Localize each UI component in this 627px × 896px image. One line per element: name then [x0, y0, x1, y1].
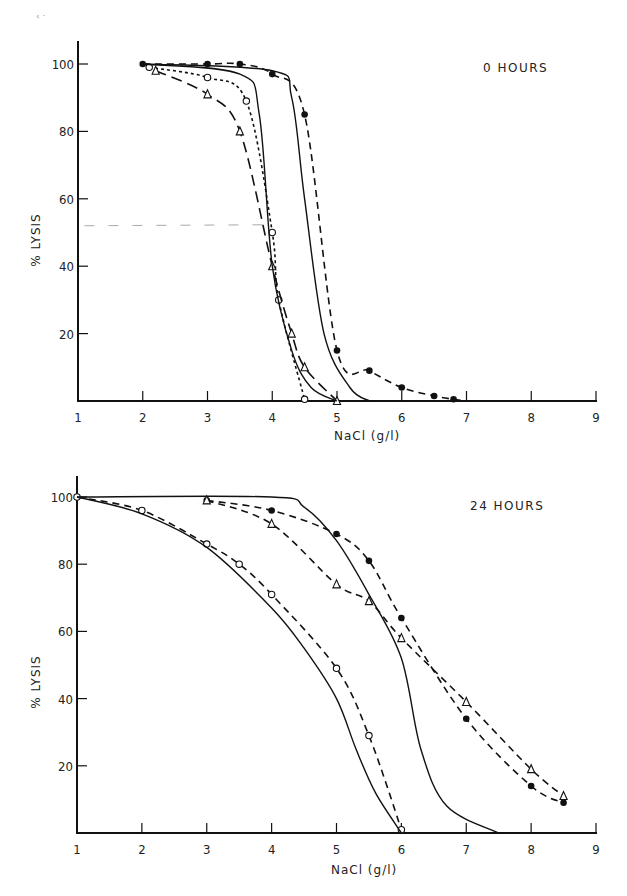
data-point-open-triangle	[236, 127, 243, 135]
x-tick-label: 4	[268, 842, 275, 857]
chart-title: 0 HOURS	[483, 61, 548, 75]
y-axis-label: % LYSIS	[29, 655, 43, 708]
x-tick-label: 1	[73, 842, 80, 857]
figure-canvas: ‹ · 123456789204060801000 HOURSNaCl (g/l…	[0, 0, 627, 896]
data-point-open-circle	[366, 732, 372, 738]
x-tick-label: 9	[592, 842, 599, 857]
data-point-filled-circle	[366, 367, 373, 374]
data-point-open-triangle	[288, 329, 295, 337]
x-axis-label: NaCl (g/l)	[331, 863, 397, 877]
x-axis-label: NaCl (g/l)	[334, 429, 400, 443]
x-tick-label: 6	[398, 410, 405, 425]
chart-24-hours: 1234567892040608010024 HOURSNaCl (g/l)% …	[29, 476, 600, 877]
data-point-open-circle	[333, 665, 339, 671]
series-line	[207, 500, 564, 802]
series-2	[152, 66, 341, 404]
x-tick-label: 2	[139, 410, 146, 425]
chart-0-hours: 123456789204060801000 HOURSNaCl (g/l)% L…	[29, 41, 600, 443]
y-tick-label: 80	[58, 557, 73, 572]
data-point-filled-circle	[463, 715, 470, 722]
data-point-open-triangle	[204, 90, 211, 98]
data-point-filled-circle	[398, 384, 405, 391]
x-tick-label: 5	[333, 842, 340, 857]
data-point-filled-circle	[560, 799, 567, 806]
x-tick-label: 3	[204, 410, 211, 425]
data-point-open-triangle	[268, 519, 275, 527]
series-4	[77, 496, 499, 833]
x-tick-label: 7	[463, 410, 470, 425]
x-tick-label: 6	[398, 842, 405, 857]
y-tick-label: 40	[58, 692, 73, 707]
series-line	[149, 67, 304, 399]
data-point-filled-circle	[301, 111, 308, 118]
x-tick-label: 8	[528, 410, 535, 425]
data-point-open-circle	[243, 98, 249, 104]
data-point-open-circle	[301, 396, 307, 402]
x-tick-label: 2	[138, 842, 145, 857]
series-line	[77, 497, 401, 833]
y-tick-label: 100	[51, 490, 73, 505]
series-line	[207, 500, 564, 796]
data-point-filled-circle	[450, 396, 457, 403]
x-tick-label: 5	[333, 410, 340, 425]
y-tick-label: 60	[58, 624, 73, 639]
data-point-open-triangle	[560, 792, 567, 800]
data-point-open-circle	[236, 561, 242, 567]
data-point-filled-circle	[366, 558, 373, 565]
data-point-filled-circle	[431, 393, 438, 400]
series-line	[77, 497, 401, 830]
y-tick-label: 80	[59, 124, 74, 139]
x-tick-label: 9	[592, 410, 599, 425]
data-point-filled-circle	[398, 615, 405, 622]
y-tick-label: 20	[59, 327, 74, 342]
reference-line	[84, 225, 265, 226]
data-point-open-triangle	[152, 66, 159, 74]
series-line	[77, 496, 499, 833]
series-1	[146, 64, 308, 402]
data-point-open-circle	[268, 591, 274, 597]
x-tick-label: 3	[203, 842, 210, 857]
data-point-filled-circle	[268, 507, 275, 514]
stray-mark: ‹ ·	[36, 11, 45, 21]
data-point-open-circle	[204, 74, 210, 80]
series-1	[203, 496, 567, 800]
y-tick-label: 40	[59, 259, 74, 274]
y-axis-label: % LYSIS	[29, 213, 43, 266]
chart-title: 24 HOURS	[470, 499, 544, 513]
data-point-filled-circle	[334, 347, 341, 354]
y-tick-label: 60	[59, 192, 74, 207]
data-point-filled-circle	[333, 531, 340, 538]
x-tick-label: 8	[527, 842, 534, 857]
data-point-open-triangle	[333, 580, 340, 588]
series-0	[139, 61, 466, 403]
data-point-open-circle	[269, 229, 275, 235]
y-tick-label: 20	[58, 759, 73, 774]
data-point-filled-circle	[237, 61, 244, 68]
x-tick-label: 1	[74, 410, 81, 425]
x-tick-label: 4	[269, 410, 276, 425]
y-tick-label: 100	[52, 57, 74, 72]
x-tick-label: 7	[463, 842, 470, 857]
series-0	[203, 497, 566, 806]
series-3	[77, 497, 401, 833]
data-point-filled-circle	[528, 783, 535, 790]
